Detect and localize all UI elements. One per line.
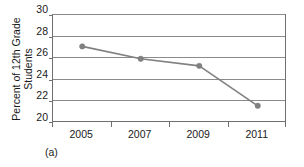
data-point-marker <box>255 103 260 108</box>
y-tick-label: 22 <box>26 90 48 100</box>
plot-area <box>52 14 286 122</box>
x-tick-label: 2007 <box>128 128 151 140</box>
y-tick-label: 26 <box>26 47 48 57</box>
x-tick-label: 2009 <box>187 128 210 140</box>
y-tick-label: 30 <box>26 4 48 14</box>
y-tick-label: 28 <box>26 26 48 36</box>
x-tick-label: 2011 <box>245 128 268 140</box>
x-tick-mark <box>169 122 170 127</box>
series-line <box>82 46 258 105</box>
series-markers <box>80 44 261 109</box>
data-point-marker <box>197 63 202 68</box>
sub-figure-caption: (a) <box>45 146 58 158</box>
data-point-marker <box>80 44 85 49</box>
x-tick-mark <box>285 122 286 127</box>
x-axis-tick-marks <box>52 122 286 127</box>
x-tick-mark <box>111 122 112 127</box>
x-tick-mark <box>228 122 229 127</box>
y-axis-tick-labels: 30 28 26 24 22 20 <box>26 9 48 122</box>
x-tick-label: 2005 <box>70 128 93 140</box>
x-axis-tick-labels: 2005 2007 2009 2011 <box>52 128 286 142</box>
data-series-layer <box>53 14 287 122</box>
x-tick-mark <box>52 122 53 127</box>
data-point-marker <box>138 56 143 61</box>
y-axis-title-line-1: Percent of 12th Grade <box>10 17 22 120</box>
y-tick-label: 20 <box>26 112 48 122</box>
line-chart-figure: Percent of 12th Grade Students 30 28 26 … <box>0 0 304 167</box>
y-tick-label: 24 <box>26 69 48 79</box>
